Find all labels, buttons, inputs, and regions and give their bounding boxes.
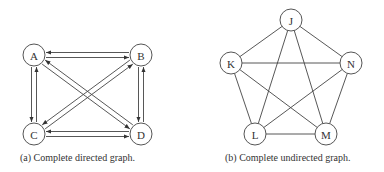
node-label: A (30, 50, 38, 62)
node-a: A (23, 44, 45, 66)
node-k: K (220, 52, 242, 74)
node-label: C (30, 129, 37, 141)
caption-undirected: (b) Complete undirected graph. (225, 152, 351, 163)
node-l: L (244, 123, 266, 145)
node-label: J (289, 15, 294, 27)
node-d: D (130, 123, 152, 145)
node-label: K (227, 58, 235, 70)
directed-graph-nodes: ABCD (23, 44, 152, 145)
node-label: N (347, 58, 355, 70)
node-b: B (130, 44, 152, 66)
edge-J-N (300, 26, 342, 56)
edge-J-K (240, 26, 282, 56)
undirected-graph-nodes: JKNLM (220, 9, 362, 145)
node-label: M (321, 129, 331, 141)
edge-N-M (330, 73, 348, 123)
node-label: B (137, 50, 144, 62)
edge-N-L (264, 70, 342, 128)
node-n: N (340, 52, 362, 74)
node-label: D (137, 129, 145, 141)
node-c: C (23, 123, 45, 145)
edge-D-to-A (45, 60, 133, 125)
edge-J-L (258, 30, 287, 123)
edge-B-to-C (42, 60, 130, 125)
graph-canvas: ABCD JKNLM (0, 0, 384, 172)
caption-directed: (a) Complete directed graph. (20, 152, 135, 163)
node-j: J (280, 9, 302, 31)
directed-graph-edges (32, 53, 144, 137)
edge-K-L (235, 73, 252, 123)
edge-J-M (294, 31, 323, 124)
node-m: M (315, 123, 337, 145)
edge-K-M (240, 70, 317, 128)
node-label: L (252, 129, 259, 141)
edge-C-to-B (45, 64, 133, 129)
undirected-graph-edges (235, 26, 348, 134)
edge-A-to-D (42, 64, 130, 129)
